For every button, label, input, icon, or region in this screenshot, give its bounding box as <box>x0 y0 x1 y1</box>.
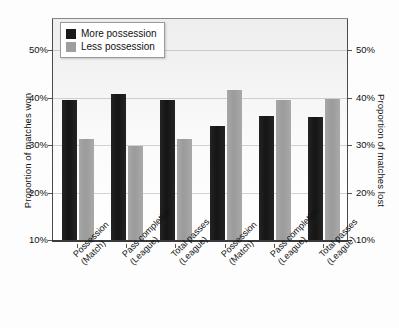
bar-chart-figure: Proportion of matches won Proportion of … <box>0 0 399 328</box>
y-tick-label-right: 20% <box>356 187 375 198</box>
x-axis-labels: Possession(Match)Pass completion(League)… <box>0 244 399 328</box>
y-tick-label-left: 30% <box>29 139 48 150</box>
legend-swatch-more-possession <box>66 29 76 39</box>
bar-more-possession <box>111 94 126 240</box>
y-tick-right <box>348 50 352 51</box>
chart-legend: More possession Less possession <box>60 22 165 58</box>
legend-label-more-possession: More possession <box>81 28 157 39</box>
y-axis-title-right: Proportion of matches lost <box>376 66 387 236</box>
bar-more-possession <box>210 126 225 240</box>
y-tick-left <box>48 240 52 241</box>
y-tick-left <box>48 98 52 99</box>
y-tick-label-right: 50% <box>356 44 375 55</box>
y-tick-right <box>348 193 352 194</box>
y-tick-label-left: 20% <box>29 187 48 198</box>
bar-less-possession <box>276 100 291 240</box>
y-tick-left <box>48 50 52 51</box>
y-tick-label-left: 50% <box>29 44 48 55</box>
y-tick-label-right: 30% <box>356 139 375 150</box>
y-tick-left <box>48 193 52 194</box>
bar-more-possession <box>259 116 274 240</box>
bar-less-possession <box>79 139 94 240</box>
bar-more-possession <box>62 100 77 240</box>
legend-item-less-possession: Less possession <box>66 40 157 53</box>
legend-swatch-less-possession <box>66 42 76 52</box>
bar-less-possession <box>227 90 242 240</box>
legend-label-less-possession: Less possession <box>81 41 155 52</box>
plot-top-border <box>52 18 348 19</box>
y-tick-label-left: 40% <box>29 92 48 103</box>
y-tick-left <box>48 145 52 146</box>
legend-item-more-possession: More possession <box>66 27 157 40</box>
y-tick-label-right: 40% <box>356 92 375 103</box>
y-tick-right <box>348 145 352 146</box>
bar-less-possession <box>177 139 192 240</box>
bar-less-possession <box>128 146 143 240</box>
y-tick-right <box>348 98 352 99</box>
